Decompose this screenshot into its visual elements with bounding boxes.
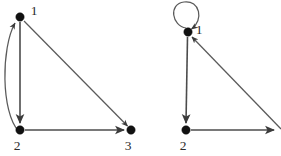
- node-left-1: [16, 13, 24, 21]
- graph-figure-svg: 1 2 3 1 2: [0, 0, 281, 156]
- left-directed-graph: 1 2 3: [5, 3, 135, 153]
- node-label-right-1: 1: [196, 22, 203, 37]
- node-label-left-2: 2: [14, 138, 21, 153]
- node-left-3: [127, 126, 135, 134]
- node-left-2: [16, 126, 24, 134]
- edge-left-2-to-1: [5, 23, 19, 131]
- node-label-left-1: 1: [31, 3, 38, 18]
- edge-right-1-to-2: [186, 37, 188, 123]
- edge-right-3-to-1: [192, 37, 281, 129]
- figure-container: 1 2 3 1 2: [0, 0, 281, 156]
- node-right-2: [182, 126, 190, 134]
- node-right-1: [184, 28, 192, 36]
- node-label-left-3: 3: [125, 138, 132, 153]
- node-label-right-2: 2: [180, 138, 187, 153]
- edge-left-1-to-3: [24, 21, 128, 126]
- right-directed-graph: 1 2: [174, 2, 281, 153]
